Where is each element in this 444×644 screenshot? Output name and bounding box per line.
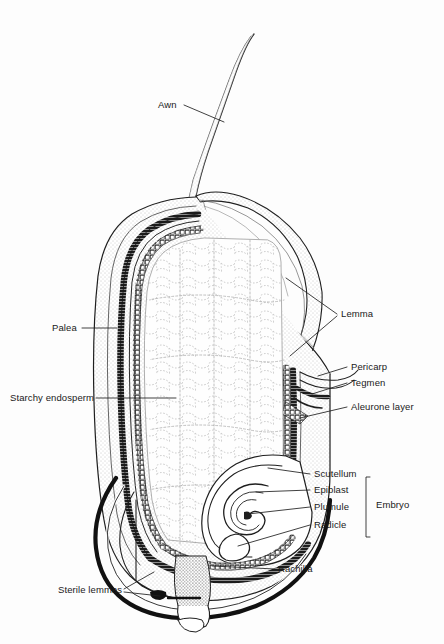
bracket-embryo bbox=[366, 477, 370, 537]
figure-page: Awn Palea Starchy endosperm Sterile lemm… bbox=[0, 0, 444, 644]
label-embryo: Embryo bbox=[376, 500, 409, 510]
label-aleurone-layer: Aleurone layer bbox=[351, 402, 414, 412]
label-palea: Palea bbox=[52, 323, 77, 333]
awn-structure bbox=[189, 34, 254, 198]
label-lemma: Lemma bbox=[341, 309, 373, 319]
label-starchy-endosperm: Starchy endosperm bbox=[10, 393, 94, 403]
label-pericarp: Pericarp bbox=[351, 362, 387, 372]
label-tegmen: Tegmen bbox=[351, 378, 385, 388]
label-rachilla: Rachilla bbox=[278, 564, 313, 574]
label-sterile-lemmas: Sterile lemmas bbox=[58, 585, 122, 595]
label-plumule: Plumule bbox=[314, 502, 349, 512]
label-scutellum: Scutellum bbox=[314, 469, 357, 479]
label-radicle: Radicle bbox=[314, 520, 346, 530]
grain-drawing bbox=[82, 34, 370, 632]
label-awn: Awn bbox=[158, 100, 177, 110]
label-epiblast: Epiblast bbox=[314, 485, 349, 495]
